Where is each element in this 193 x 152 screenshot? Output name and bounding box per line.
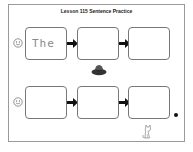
- hat-icon: [91, 64, 107, 76]
- word-box-2-3[interactable]: [128, 86, 170, 119]
- cat-icon: [141, 124, 153, 140]
- word-text: The: [32, 37, 55, 50]
- word-box-2-2[interactable]: [77, 86, 119, 119]
- smiley-face-icon: [13, 38, 23, 48]
- period-mark: [174, 113, 178, 117]
- word-box-1-2[interactable]: [77, 27, 119, 60]
- worksheet-title: Lesson 115 Sentence Practice: [0, 8, 193, 14]
- word-box-2-1[interactable]: [25, 86, 67, 119]
- smiley-face-icon: [13, 97, 23, 107]
- word-box-1-3[interactable]: [128, 27, 170, 60]
- word-box-1-1[interactable]: The: [25, 27, 67, 60]
